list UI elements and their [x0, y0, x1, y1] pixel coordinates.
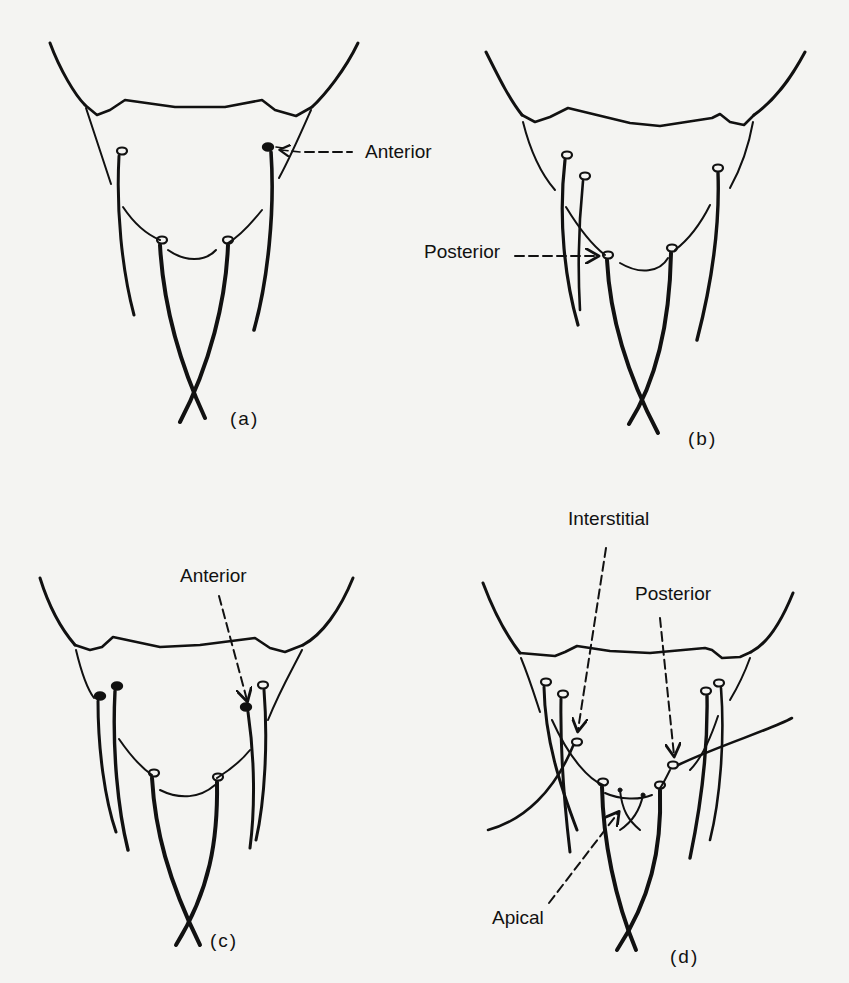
caption-d: (d): [670, 946, 699, 968]
label-posterior-b: Posterior: [424, 241, 500, 263]
label-posterior-d: Posterior: [635, 583, 711, 605]
panel-a-drawing: [50, 43, 358, 422]
caption-b: (b): [688, 428, 717, 450]
panel-d-drawing: [483, 548, 793, 950]
label-anterior-c: Anterior: [180, 565, 247, 587]
caption-a: (a): [230, 408, 259, 430]
label-apical-d: Apical: [492, 907, 544, 929]
caption-c: (c): [210, 930, 238, 952]
panel-c-drawing: [40, 578, 353, 945]
label-interstitial-d: Interstitial: [568, 508, 649, 530]
label-anterior-a: Anterior: [365, 141, 432, 163]
panel-b-drawing: [486, 52, 805, 433]
